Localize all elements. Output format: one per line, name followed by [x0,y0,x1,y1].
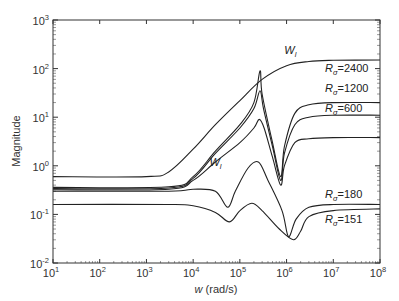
y-tick-label: 102 [33,62,49,76]
y-tick-label: 100 [33,159,49,173]
x-tick-label: 103 [136,265,152,279]
curve-label-r-sigma: Rσ=151 [325,213,362,228]
x-axis-unit: (rad/s) [203,283,238,295]
ticks-group: 10110210310410510610710810-210-110010110… [30,13,386,279]
x-tick-label: 106 [276,265,292,279]
y-tick-label: 103 [33,13,49,27]
curve-label-r-sigma: Rσ=2400 [325,62,368,77]
y-axis-title: Magnitude [10,115,22,166]
x-tick-label: 101 [43,265,59,279]
y-tick-label: 101 [33,110,49,124]
plot-frame [53,20,380,263]
curve-r-600 [53,119,380,190]
x-tick-label: 105 [230,265,246,279]
y-tick-label: 10-1 [30,207,49,221]
x-tick-label: 102 [90,265,106,279]
x-tick-label: 108 [370,265,386,279]
x-tick-label: 107 [323,265,339,279]
labels-group: Rσ=2400Rσ=1200Rσ=600Rσ=180Rσ=151WlWl [209,44,368,228]
magnitude-plot: 10110210310410510610710810-210-110010110… [0,0,399,301]
curve-label-r-sigma: Rσ=1200 [325,82,368,97]
curve-label-w-upper: Wl [284,44,296,59]
x-tick-label: 104 [183,265,199,279]
curve-label-r-sigma: Rσ=180 [325,188,362,203]
x-axis-title: w (rad/s) [195,283,238,295]
